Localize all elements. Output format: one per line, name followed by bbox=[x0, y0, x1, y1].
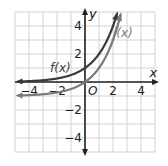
y-tick-label: −4 bbox=[64, 131, 82, 145]
j-arrow-left-icon bbox=[16, 92, 23, 98]
y-axis-label: y bbox=[88, 6, 97, 21]
axes bbox=[15, 8, 159, 156]
j-curve-label: j(x) bbox=[111, 26, 133, 40]
f-curve-label: f(x) bbox=[50, 61, 71, 75]
f-arrow-left-icon bbox=[16, 78, 23, 84]
y-tick-label: 4 bbox=[74, 19, 82, 33]
x-tick-label: 4 bbox=[137, 84, 145, 98]
x-tick-label: 2 bbox=[109, 84, 117, 98]
y-axis-arrow-down-icon bbox=[82, 149, 88, 156]
y-axis-arrow-up-icon bbox=[82, 8, 88, 15]
y-tick-label: −2 bbox=[64, 103, 82, 117]
coordinate-plane: −4−22442−2−4 x y O f(x) j(x) bbox=[0, 0, 168, 166]
y-tick-label: 2 bbox=[74, 47, 82, 61]
x-axis-label: x bbox=[148, 65, 157, 80]
origin-label: O bbox=[88, 84, 97, 98]
